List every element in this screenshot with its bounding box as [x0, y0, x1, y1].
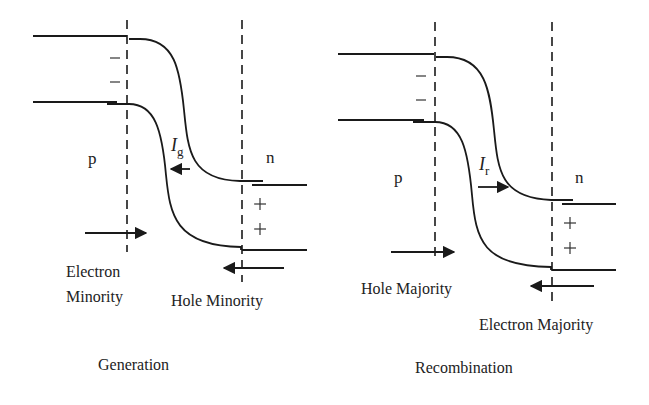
- positive-charge-icon: [254, 223, 266, 235]
- electron-minority-label-line1: Electron: [66, 263, 120, 280]
- generation-panel: p n Ig Electron Minority Hole Minority G…: [33, 20, 307, 373]
- p-region-label: p: [88, 149, 97, 168]
- electron-minority-label-line2: Minority: [66, 288, 123, 306]
- recombination-caption: Recombination: [415, 359, 513, 376]
- positive-charge-icon: [254, 198, 266, 210]
- hole-majority-label: Hole Majority: [361, 280, 452, 298]
- n-region-label: n: [575, 168, 584, 187]
- recombination-panel: p n Ir Hole Majority Electron Majority R…: [338, 22, 616, 376]
- current-label: Ig: [170, 135, 184, 159]
- electron-majority-label: Electron Majority: [479, 316, 593, 334]
- current-label: Ir: [478, 154, 490, 178]
- n-region-label: n: [266, 148, 275, 167]
- positive-charge-icon: [564, 242, 576, 254]
- band-diagram-canvas: p n Ig Electron Minority Hole Minority G…: [0, 0, 649, 405]
- valence-band-curve: [33, 102, 307, 250]
- p-region-label: p: [394, 168, 403, 187]
- generation-caption: Generation: [98, 356, 169, 373]
- hole-minority-label: Hole Minority: [171, 292, 263, 310]
- positive-charge-icon: [564, 217, 576, 229]
